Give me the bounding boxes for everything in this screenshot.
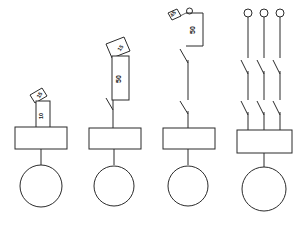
figure-4-coil-box [237,130,292,153]
figure-3-contact-blade-upper [180,49,188,63]
figure-3-group: 45 50 [163,8,215,206]
figure-1-lamp [20,165,62,207]
figure-4-terminal-1 [244,9,252,17]
figure-1-dimension-label: 10 [38,113,44,119]
figure-4-contact-blade-lower-1 [241,101,248,115]
figure-1-group: 15 10 [15,88,67,207]
figure-2-angle-annotation: 15 [106,37,130,58]
figure-2-group: 15 50 [89,37,141,206]
schematic-drawing: 15 10 15 50 [0,0,299,228]
figure-2-dimension-label: 50 [115,75,122,83]
figure-3-dimension-label: 50 [189,26,196,34]
figure-3-contact-blade-lower [180,101,188,114]
figure-3-angle-annotation: 45 [168,8,193,20]
figure-3-coil-box [163,128,215,149]
figure-2-coil-box [89,128,141,149]
figure-4-lamp [242,167,286,211]
figure-4-terminal-2 [260,9,268,17]
figure-3-lamp [168,166,208,206]
figure-4-terminal-3 [276,9,284,17]
figure-2-lamp [94,166,134,206]
figure-1-coil-box [15,127,67,149]
diagram-canvas: 15 10 15 50 [0,0,299,228]
figure-4-contact-blade-lower-3 [273,101,280,115]
figure-4-contact-blade-upper-1 [241,60,248,74]
figure-4-contact-blade-upper-2 [257,60,264,74]
figure-2-dimension-box-group: 50 [112,56,129,100]
figure-4-group [237,9,292,211]
figure-4-contact-blade-lower-2 [257,101,264,115]
figure-3-dimension-box-group: 50 [186,13,203,46]
figure-4-contact-blade-upper-3 [273,60,280,74]
